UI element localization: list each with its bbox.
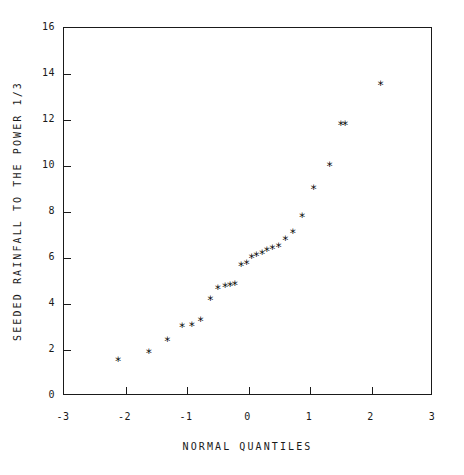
data-point <box>376 78 385 87</box>
x-axis-tick-label: 2 <box>367 412 374 422</box>
y-axis-title-container: SEEDED RAINFALL TO THE POWER 1/3 <box>0 27 34 395</box>
x-axis-tick <box>126 387 127 394</box>
data-point <box>325 159 334 168</box>
qq-plot-figure: SEEDED RAINFALL TO THE POWER 1/3 0246810… <box>0 0 464 475</box>
y-axis-tick <box>64 304 71 305</box>
y-axis-title: SEEDED RAINFALL TO THE POWER 1/3 <box>12 81 23 341</box>
y-axis-tick-label: 14 <box>33 68 55 78</box>
data-point <box>144 346 153 355</box>
x-axis-tick-label: 1 <box>306 412 313 422</box>
data-point <box>341 118 350 127</box>
x-axis-tick <box>249 387 250 394</box>
y-axis-tick-label: 8 <box>33 206 55 216</box>
data-point <box>309 182 318 191</box>
y-axis-tick-label: 4 <box>33 298 55 308</box>
x-axis-tick-label: -2 <box>118 412 131 422</box>
data-point <box>230 278 239 287</box>
data-point <box>196 314 205 323</box>
plot-frame <box>63 27 432 395</box>
y-axis-tick-label: 10 <box>33 160 55 170</box>
y-axis-tick <box>64 350 71 351</box>
y-axis-tick-label: 6 <box>33 252 55 262</box>
data-point <box>298 210 307 219</box>
x-axis-tick-label: -3 <box>56 412 69 422</box>
x-axis-tick <box>310 387 311 394</box>
y-axis-tick-label: 0 <box>33 390 55 400</box>
data-point <box>114 354 123 363</box>
y-axis-tick <box>64 258 71 259</box>
data-point <box>178 320 187 329</box>
data-point <box>288 226 297 235</box>
x-axis-title: NORMAL QUANTILES <box>63 441 432 452</box>
y-axis-tick <box>64 212 71 213</box>
x-axis-tick-label: 3 <box>429 412 436 422</box>
y-axis-tick <box>64 166 71 167</box>
x-axis-tick-label: -1 <box>179 412 192 422</box>
x-axis-tick <box>187 387 188 394</box>
plot-data-area <box>64 28 431 394</box>
y-axis-tick <box>64 120 71 121</box>
y-axis-tick-label: 16 <box>33 22 55 32</box>
y-axis-tick-label: 2 <box>33 344 55 354</box>
x-axis-tick-label: 0 <box>244 412 251 422</box>
y-axis-tick <box>64 74 71 75</box>
y-axis-tick-label: 12 <box>33 114 55 124</box>
x-axis-tick <box>372 387 373 394</box>
data-point <box>163 334 172 343</box>
